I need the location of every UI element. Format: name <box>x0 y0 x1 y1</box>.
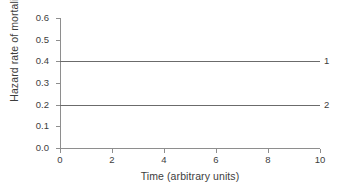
series-label-2: 2 <box>324 100 329 110</box>
x-tick-mark <box>164 149 165 153</box>
y-tick-mark: 0.5 <box>56 40 60 41</box>
y-tick-mark: 0.1 <box>56 126 60 127</box>
x-tick-label: 4 <box>161 155 166 165</box>
y-axis-title: Hazard rate of mortality <box>8 0 20 111</box>
y-axis-spine <box>60 18 61 149</box>
y-tick-label: 0.1 <box>36 122 49 132</box>
x-tick-label: 8 <box>265 155 270 165</box>
y-tick-label: 0.0 <box>36 143 49 153</box>
y-tick-label: 0.5 <box>36 35 49 45</box>
x-tick-mark <box>268 149 269 153</box>
y-tick-mark: 0.3 <box>56 83 60 84</box>
y-tick-mark: 0.6 <box>56 18 60 19</box>
series-line-2 <box>60 105 320 106</box>
series-label-1: 1 <box>324 57 329 67</box>
x-tick-label: 10 <box>315 155 326 165</box>
x-tick-label: 2 <box>109 155 114 165</box>
x-tick-mark <box>320 149 321 153</box>
x-tick-mark <box>216 149 217 153</box>
plot-area: 0.0 0.1 0.2 0.3 0.4 0.5 0.6 0 2 4 6 8 <box>60 18 320 149</box>
x-tick-label: 6 <box>213 155 218 165</box>
x-tick-mark <box>60 149 61 153</box>
y-tick-label: 0.6 <box>36 13 49 23</box>
x-tick-mark <box>112 149 113 153</box>
y-tick-label: 0.2 <box>36 100 49 110</box>
x-axis-title: Time (arbitrary units) <box>60 170 320 182</box>
hazard-rate-chart: Hazard rate of mortality Time (arbitrary… <box>0 0 340 192</box>
x-tick-label: 0 <box>57 155 62 165</box>
y-tick-label: 0.4 <box>36 57 49 67</box>
y-tick-label: 0.3 <box>36 78 49 88</box>
series-line-1 <box>60 61 320 62</box>
x-axis-spine <box>60 148 320 149</box>
